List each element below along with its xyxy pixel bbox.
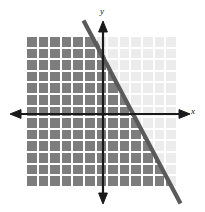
y-axis-arrow-up: [99, 21, 108, 32]
coordinate-plane-plot: [0, 0, 205, 212]
x-axis-label: x: [191, 107, 195, 116]
y-axis-arrow-down: [99, 193, 108, 204]
x-axis-arrow-left: [10, 110, 21, 119]
inequality-graph-figure: y x: [0, 0, 205, 212]
x-axis-arrow-right: [179, 110, 190, 119]
y-axis-label: y: [100, 7, 104, 16]
